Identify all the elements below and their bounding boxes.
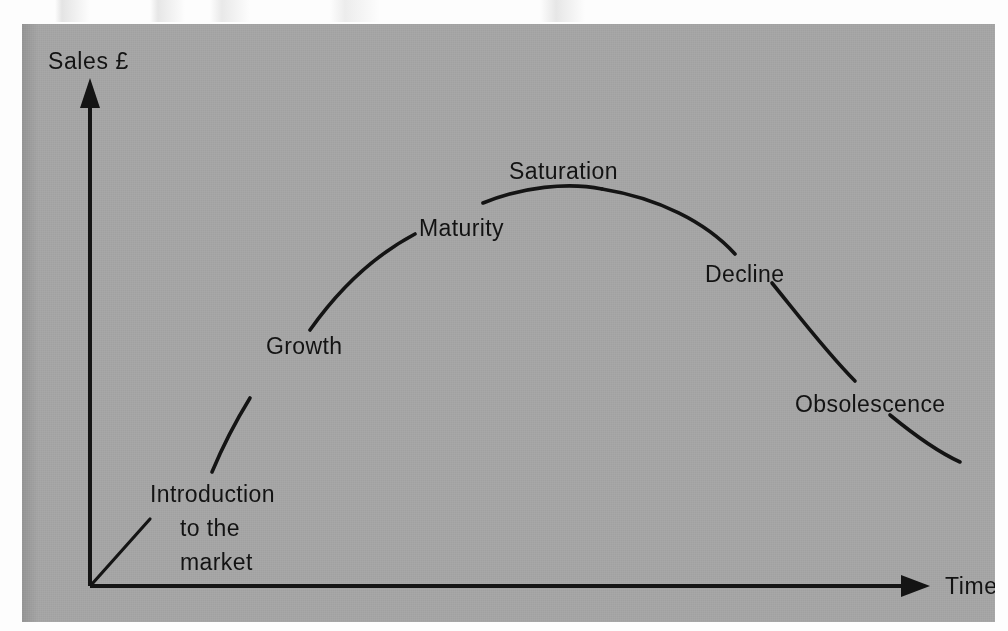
curve-segment-growth-maturity (310, 234, 415, 330)
introduction-leader-line (92, 519, 150, 584)
product-life-cycle-diagram: Sales £ Time Introduction to the market … (22, 24, 995, 622)
curve-segment-decline-obsolescence (772, 283, 855, 381)
scan-artifact-top (0, 0, 1008, 22)
x-axis-label: Time (945, 573, 995, 599)
figure-panel: Sales £ Time Introduction to the market … (22, 24, 995, 622)
stage-label-obsolescence: Obsolescence (795, 391, 946, 417)
curve-segment-obsolescence-tail (890, 415, 960, 462)
stage-label-introduction-line1: Introduction (150, 481, 275, 507)
y-axis-label: Sales £ (48, 48, 129, 74)
page-root: Sales £ Time Introduction to the market … (0, 0, 1008, 631)
stage-label-introduction-line2: to the (180, 515, 240, 541)
curve-segment-maturity-saturation (483, 186, 602, 203)
stage-label-introduction-line3: market (180, 549, 253, 575)
curve-segment-introduction-growth (212, 398, 250, 472)
stage-label-growth: Growth (266, 333, 343, 359)
curve-segment-saturation-decline (602, 189, 735, 254)
stage-label-saturation: Saturation (509, 158, 618, 184)
x-axis (90, 575, 930, 597)
y-axis-arrowhead-icon (80, 78, 100, 108)
life-cycle-curve (212, 186, 960, 472)
stage-label-decline: Decline (705, 261, 785, 287)
stage-label-introduction: Introduction to the market (150, 481, 275, 575)
x-axis-arrowhead-icon (901, 575, 930, 597)
stage-label-maturity: Maturity (419, 215, 504, 241)
y-axis (80, 78, 100, 586)
